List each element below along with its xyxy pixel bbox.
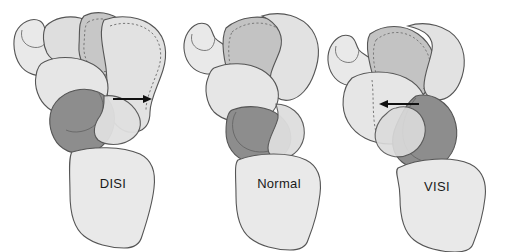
- panel-label-normal: Normal: [257, 176, 301, 191]
- panel-label-visi: VISI: [424, 179, 450, 194]
- carpal-alignment-figure: DISI Normal: [0, 0, 505, 252]
- figure-canvas: DISI Normal: [0, 0, 505, 252]
- normal-radius-bone: [236, 154, 321, 250]
- panel-label-disi: DISI: [100, 176, 126, 191]
- disi-radius-bone: [70, 148, 155, 248]
